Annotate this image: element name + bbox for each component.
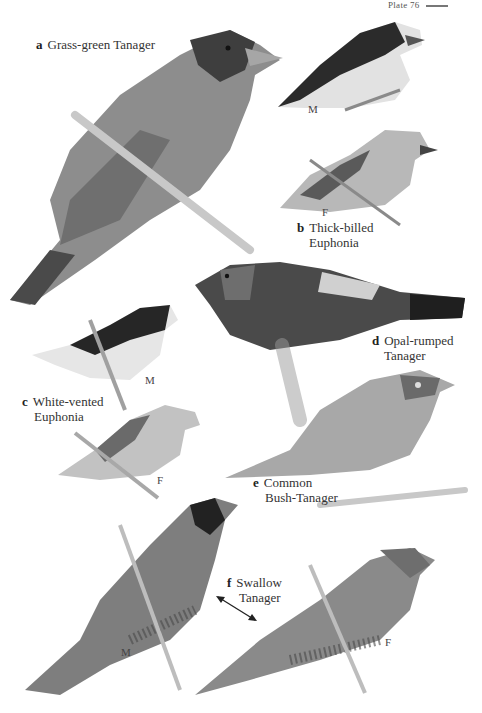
sex-label-male: M <box>308 103 318 115</box>
bird-swallow-tanager-female <box>195 548 435 695</box>
label-swallow-tanager: fSwallow Tanager <box>227 575 282 605</box>
bird-grass-green-tanager <box>10 30 283 305</box>
bird-thick-billed-euphonia-male <box>278 22 425 110</box>
sex-label-male: M <box>121 646 131 658</box>
sex-label-female: F <box>157 474 163 486</box>
label-thick-billed-euphonia: bThick-billed Euphonia <box>297 220 374 250</box>
sex-label-female: F <box>385 636 391 648</box>
plate-number: Plate 76 <box>388 0 420 10</box>
label-opal-rumped-tanager: dOpal-rumped Tanager <box>372 333 454 363</box>
label-white-vented-euphonia: cWhite-vented Euphonia <box>22 394 104 424</box>
field-guide-plate: Plate 76 aGrass-green Tanager M F bThick… <box>0 0 482 713</box>
bird-swallow-tanager-male <box>25 498 238 695</box>
bird-thick-billed-euphonia-female <box>280 130 438 225</box>
sex-label-female: F <box>322 206 328 218</box>
label-common-bush-tanager: eCommon Bush-Tanager <box>253 475 338 505</box>
header-rule <box>426 5 448 7</box>
label-grass-green-tanager: aGrass-green Tanager <box>36 37 155 52</box>
sex-label-male: M <box>145 374 155 386</box>
plate-header: Plate 76 <box>388 0 448 10</box>
